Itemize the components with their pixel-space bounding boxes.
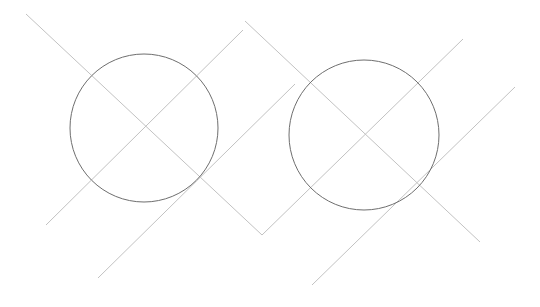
drawing-area	[0, 0, 540, 307]
diagonal-line-bottommiddle-to-topright	[262, 39, 463, 235]
diagonal-line-short-left	[98, 84, 295, 278]
diagonal-line-bottomleft-to-topmiddle	[46, 30, 243, 225]
diagonal-line-short-right	[312, 87, 515, 285]
diagonal-line-topmiddle-to-bottomright	[245, 21, 480, 242]
drawing-svg	[0, 0, 540, 307]
